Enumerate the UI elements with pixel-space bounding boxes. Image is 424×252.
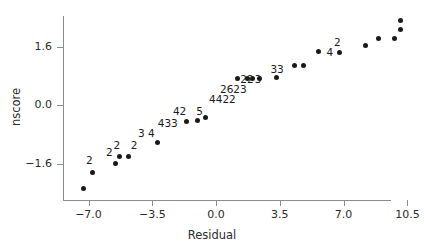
point-count-label: 3 bbox=[255, 73, 262, 84]
x-tick-label: 0.0 bbox=[207, 209, 225, 221]
y-tick-mark bbox=[57, 47, 64, 48]
data-point bbox=[195, 118, 200, 123]
x-tick-label: 10.5 bbox=[395, 209, 420, 221]
plot-area: 1.60.0−1.6 −7.0−3.50.03.57.010.5 2222344… bbox=[0, 0, 424, 252]
x-axis-title: Residual bbox=[0, 228, 424, 242]
point-count-label: 433 bbox=[158, 118, 178, 129]
y-tick-label: 1.6 bbox=[18, 41, 52, 53]
data-point bbox=[113, 161, 118, 166]
point-count-label: 4 bbox=[148, 127, 155, 138]
data-point bbox=[398, 27, 403, 32]
data-point bbox=[81, 186, 86, 191]
y-axis-title: nscore bbox=[9, 77, 23, 137]
x-tick-mark bbox=[280, 200, 281, 206]
x-axis-line bbox=[63, 200, 391, 201]
x-tick-mark bbox=[216, 200, 217, 206]
point-count-label: 3 bbox=[138, 127, 145, 138]
point-count-label: 2 bbox=[113, 140, 120, 151]
point-count-label: 2 bbox=[86, 155, 93, 166]
data-point bbox=[184, 119, 189, 124]
data-point bbox=[376, 36, 381, 41]
x-tick-label: −7.0 bbox=[75, 209, 102, 221]
normal-probability-plot-figure: 1.60.0−1.6 −7.0−3.50.03.57.010.5 2222344… bbox=[0, 0, 424, 252]
x-tick-label: 3.5 bbox=[271, 209, 289, 221]
point-count-label: 4 bbox=[327, 47, 334, 58]
point-count-label: 33 bbox=[270, 63, 283, 74]
data-point bbox=[392, 36, 397, 41]
x-tick-label: 7.0 bbox=[335, 209, 353, 221]
data-point bbox=[363, 43, 368, 48]
data-point bbox=[337, 50, 342, 55]
y-tick-mark bbox=[57, 164, 64, 165]
point-count-label: 5 bbox=[196, 106, 203, 117]
x-tick-mark bbox=[344, 200, 345, 206]
point-count-label: 2 bbox=[334, 36, 341, 47]
data-point bbox=[90, 170, 95, 175]
data-point bbox=[126, 154, 131, 159]
data-point bbox=[292, 63, 297, 68]
point-count-label: 2 bbox=[106, 146, 113, 157]
y-tick-label: 0.0 bbox=[18, 99, 52, 111]
point-count-label: 22 bbox=[240, 73, 253, 84]
y-axis-line bbox=[63, 16, 64, 201]
data-point bbox=[398, 18, 403, 23]
point-count-label: 2 bbox=[131, 140, 138, 151]
y-tick-label: −1.6 bbox=[18, 158, 52, 170]
data-point bbox=[117, 154, 122, 159]
data-point bbox=[203, 115, 208, 120]
y-tick-mark bbox=[57, 105, 64, 106]
point-count-label: 2623 bbox=[220, 83, 247, 94]
x-tick-mark bbox=[152, 200, 153, 206]
data-point bbox=[274, 75, 279, 80]
x-tick-mark bbox=[407, 200, 408, 206]
data-point bbox=[316, 49, 321, 54]
point-count-label: 4422 bbox=[209, 94, 236, 105]
x-tick-label: −3.5 bbox=[139, 209, 166, 221]
data-point bbox=[155, 140, 160, 145]
x-tick-mark bbox=[89, 200, 90, 206]
point-count-label: 42 bbox=[173, 106, 186, 117]
data-point bbox=[301, 63, 306, 68]
